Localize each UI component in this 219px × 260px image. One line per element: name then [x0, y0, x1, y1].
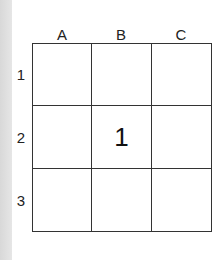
row-header-3: 3 — [15, 192, 27, 209]
cell-c1[interactable] — [152, 44, 212, 106]
column-header-a: A — [32, 26, 92, 43]
cell-a3[interactable] — [33, 169, 92, 232]
cell-b3[interactable] — [92, 169, 152, 232]
cell-a1[interactable] — [33, 44, 92, 106]
cell-c3[interactable] — [152, 169, 212, 232]
column-header-b: B — [91, 26, 151, 43]
row-header-2: 2 — [15, 129, 27, 146]
row-header-1: 1 — [15, 66, 27, 83]
cell-a2[interactable] — [33, 106, 92, 169]
column-header-c: C — [151, 26, 211, 43]
cell-b1[interactable] — [92, 44, 152, 106]
left-margin-strip — [0, 0, 12, 260]
grid-3x3: 1 — [32, 43, 212, 232]
cell-c2[interactable] — [152, 106, 212, 169]
cell-b2[interactable]: 1 — [92, 106, 152, 169]
